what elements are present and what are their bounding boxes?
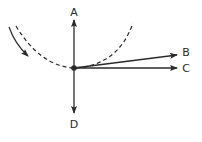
diagram-svg [0,0,202,142]
diagram-canvas: A B C D [0,0,202,142]
label-a: A [70,7,78,19]
motion-direction-arrow [9,27,28,56]
label-c: C [182,63,190,75]
label-b: B [182,47,190,59]
label-d: D [70,119,78,131]
object-point [71,65,77,71]
arrow-b [74,55,177,68]
